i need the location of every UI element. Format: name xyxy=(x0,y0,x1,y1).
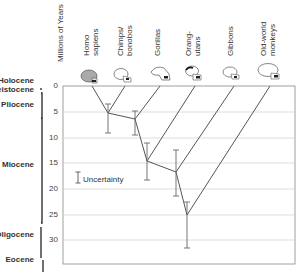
epoch-brackets xyxy=(41,88,43,272)
tree-branches xyxy=(92,86,270,215)
chart-frame xyxy=(63,86,295,264)
phylogeny-diagram xyxy=(0,0,304,275)
orangutan-skull-icon xyxy=(186,66,202,80)
gridlines xyxy=(63,112,295,240)
gibbon-skull-icon xyxy=(223,67,239,79)
uncertainty-legend-icon xyxy=(76,172,81,183)
monkey-skull-icon xyxy=(258,64,279,80)
human-skull-icon xyxy=(81,70,97,83)
chimp-skull-icon xyxy=(114,69,131,83)
gorilla-skull-icon xyxy=(151,67,170,80)
